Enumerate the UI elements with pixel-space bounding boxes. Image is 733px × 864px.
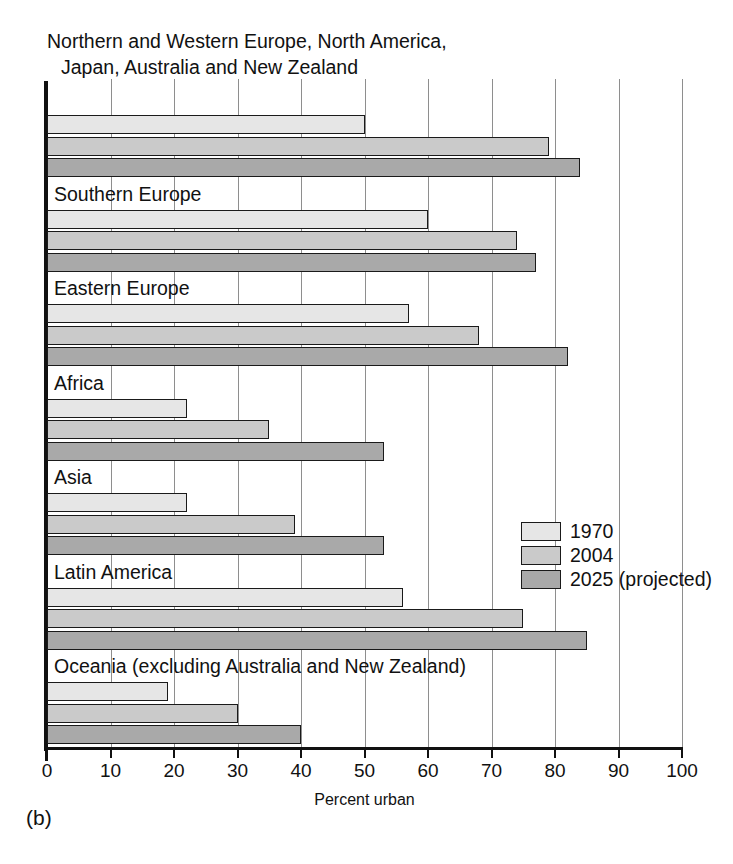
- x-tick-label: 50: [335, 761, 395, 780]
- bar-group-label: Eastern Europe: [54, 277, 190, 300]
- chart-header-caption: Northern and Western Europe, North Ameri…: [47, 28, 647, 80]
- gridline: [682, 79, 683, 747]
- bar: [47, 631, 587, 650]
- bar: [47, 704, 238, 723]
- bar: [47, 326, 479, 345]
- legend-swatch-2025: [521, 570, 561, 589]
- bar-group: Eastern Europe: [47, 274, 682, 369]
- legend: 1970 2004 2025 (projected): [521, 520, 712, 592]
- x-tick-label: 40: [271, 761, 331, 780]
- x-tick-label: 90: [589, 761, 649, 780]
- x-tick: [300, 747, 302, 758]
- legend-label-2004: 2004: [570, 546, 613, 566]
- x-tick-label: 20: [144, 761, 204, 780]
- bar-group-label: Oceania (excluding Australia and New Zea…: [54, 655, 466, 678]
- x-tick-label: 60: [398, 761, 458, 780]
- bar: [47, 210, 428, 229]
- bar: [47, 304, 409, 323]
- x-tick: [681, 747, 683, 758]
- bar: [47, 399, 187, 418]
- bar: [47, 588, 403, 607]
- bar-group: Southern Europe: [47, 180, 682, 275]
- x-tick-label: 70: [462, 761, 522, 780]
- bar: [47, 137, 549, 156]
- x-tick: [45, 747, 48, 761]
- bar: [47, 420, 269, 439]
- x-tick-label: 10: [81, 761, 141, 780]
- bar-group: [47, 85, 682, 180]
- x-axis-title: Percent urban: [47, 791, 682, 809]
- legend-item: 1970: [521, 520, 712, 543]
- bar: [47, 725, 301, 744]
- legend-swatch-1970: [521, 522, 561, 541]
- bar: [47, 158, 580, 177]
- bar: [47, 253, 536, 272]
- bar-group-label: Latin America: [54, 561, 172, 584]
- chart-header-line-1: Northern and Western Europe, North Ameri…: [47, 28, 647, 54]
- bar: [47, 493, 187, 512]
- bar: [47, 682, 168, 701]
- x-tick: [491, 747, 493, 758]
- bar-group-label: Africa: [54, 372, 104, 395]
- bar: [47, 515, 295, 534]
- chart-header-line-2: Japan, Australia and New Zealand: [47, 54, 647, 80]
- bar: [47, 115, 365, 134]
- bar-group-label: Southern Europe: [54, 183, 201, 206]
- figure-panel: Northern and Western Europe, North Ameri…: [0, 0, 733, 864]
- plot-area: 0102030405060708090100 Southern EuropeEa…: [47, 85, 682, 747]
- bar: [47, 442, 384, 461]
- x-tick: [427, 747, 429, 758]
- legend-swatch-2004: [521, 546, 561, 565]
- x-tick: [554, 747, 556, 758]
- legend-label-1970: 1970: [570, 522, 613, 542]
- x-tick-label: 80: [525, 761, 585, 780]
- bar-group: Africa: [47, 369, 682, 464]
- x-tick: [173, 747, 175, 758]
- legend-item: 2025 (projected): [521, 568, 712, 591]
- x-tick-label: 30: [208, 761, 268, 780]
- bar: [47, 536, 384, 555]
- legend-item: 2004: [521, 544, 712, 567]
- figure-number-label: (b): [26, 806, 52, 830]
- bar: [47, 347, 568, 366]
- x-tick: [110, 747, 112, 758]
- bar: [47, 609, 523, 628]
- x-tick: [618, 747, 620, 758]
- bar-group: Oceania (excluding Australia and New Zea…: [47, 652, 682, 747]
- x-tick-label: 100: [652, 761, 712, 780]
- x-tick: [364, 747, 366, 758]
- bar: [47, 231, 517, 250]
- legend-label-2025: 2025 (projected): [570, 570, 712, 590]
- x-tick-label: 0: [17, 761, 77, 780]
- x-tick: [237, 747, 239, 758]
- bar-group-label: Asia: [54, 466, 92, 489]
